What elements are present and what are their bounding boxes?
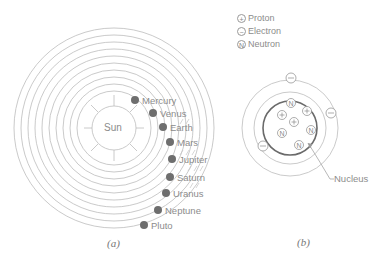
planet-saturn xyxy=(166,173,174,181)
planet-earth xyxy=(159,123,167,131)
planet-label-pluto: Pluto xyxy=(151,221,173,231)
legend-label: Proton xyxy=(248,13,275,23)
planet-mercury xyxy=(131,96,139,104)
electron-icon: − xyxy=(237,27,246,36)
planet-uranus xyxy=(162,189,170,197)
planet-jupiter xyxy=(168,155,176,163)
planet-pluto xyxy=(140,221,148,229)
planet-label-uranus: Uranus xyxy=(173,189,204,199)
caption-b: (b) xyxy=(297,236,310,248)
planet-label-neptune: Neptune xyxy=(165,206,201,216)
planet-label-mars: Mars xyxy=(177,138,198,148)
legend-label: Neutron xyxy=(248,39,280,49)
svg-text:N: N xyxy=(279,130,284,137)
legend-electron: − Electron xyxy=(237,26,281,36)
planet-label-earth: Earth xyxy=(170,123,193,133)
planet-label-mercury: Mercury xyxy=(142,96,176,106)
svg-text:N: N xyxy=(308,127,313,134)
proton-icon: + xyxy=(237,14,246,23)
atom xyxy=(242,80,338,176)
caption-a: (a) xyxy=(107,237,120,249)
svg-text:N: N xyxy=(296,142,301,149)
svg-text:N: N xyxy=(288,100,293,107)
planet-label-venus: Venus xyxy=(160,109,186,119)
nucleus-label: Nucleus xyxy=(334,174,368,184)
legend-neutron: N Neutron xyxy=(237,39,280,49)
planet-mars xyxy=(166,138,174,146)
neutron-icon: N xyxy=(237,40,246,49)
planet-venus xyxy=(149,109,157,117)
planet-label-saturn: Saturn xyxy=(177,173,205,183)
nucleus-pointer xyxy=(308,143,334,179)
sun-label: Sun xyxy=(104,122,122,133)
electron-orbit-outer xyxy=(242,80,338,176)
planet-label-jupiter: Jupiter xyxy=(179,155,208,165)
legend-label: Electron xyxy=(248,26,281,36)
legend-proton: + Proton xyxy=(237,13,275,23)
planet-neptune xyxy=(154,206,162,214)
